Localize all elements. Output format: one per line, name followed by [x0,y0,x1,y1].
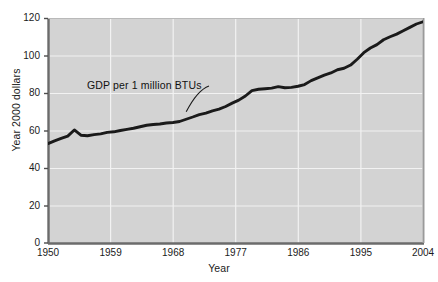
chart-figure: 120 100 80 60 40 20 0 1950 1959 1968 197… [0,0,438,282]
x-tick-label-1977: 1977 [211,247,261,258]
y-tick-label-100: 100 [6,50,40,61]
x-tick-label-1995: 1995 [336,247,386,258]
x-tick-label-1950: 1950 [23,247,73,258]
chart-canvas [0,0,438,282]
x-tick-label-2004: 2004 [398,247,438,258]
x-axis-label: Year [0,262,438,274]
y-tick-label-40: 40 [6,162,40,173]
x-tick-label-1986: 1986 [273,247,323,258]
x-tick-label-1959: 1959 [86,247,136,258]
y-tick-label-120: 120 [6,12,40,23]
y-tick-label-20: 20 [6,200,40,211]
series-annotation-label: GDP per 1 million BTUs [87,79,202,91]
x-tick-label-1968: 1968 [148,247,198,258]
y-axis-label: Year 2000 dollars [10,61,22,159]
